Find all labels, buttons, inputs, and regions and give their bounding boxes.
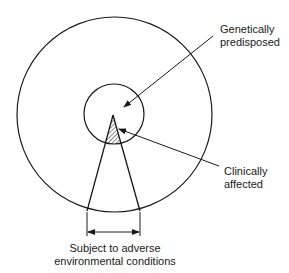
label-genetically-predisposed: Genetically predisposed [220, 23, 280, 49]
label-line: environmental conditions [40, 255, 190, 268]
label-environmental-conditions: Subject to adverse environmental conditi… [40, 242, 190, 268]
label-line: Genetically [220, 23, 280, 36]
label-line: predisposed [220, 36, 280, 49]
arrow-clinically-affected [119, 129, 219, 166]
outer-circle [17, 17, 212, 212]
arrow-genetically-predisposed [124, 36, 213, 107]
label-line: Clinically [224, 165, 267, 178]
sector-left-edge [87, 115, 113, 211]
label-clinically-affected: Clinically affected [224, 165, 267, 191]
sector-right-edge [113, 115, 140, 211]
hatched-overlap [87, 116, 140, 211]
label-line: affected [224, 178, 267, 191]
label-line: Subject to adverse [40, 242, 190, 255]
